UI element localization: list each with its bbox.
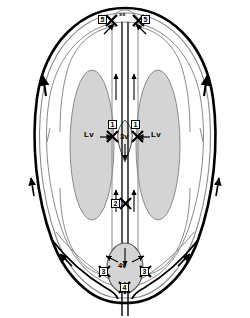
obstruction-box-site-1-right: 1 — [131, 120, 140, 129]
obstruction-box-site-3-right: 3 — [140, 267, 149, 276]
obstruction-box-site-2: 2 — [111, 199, 120, 208]
obstruction-box-site-5-right: 5 — [141, 15, 150, 24]
label-third-ventricle: 3v — [120, 133, 128, 141]
obstruction-box-site-1-left: 1 — [108, 120, 117, 129]
lateral-ventricle-right — [136, 70, 180, 220]
label-fourth-ventricle: 4v — [118, 262, 126, 270]
flow-arrow-convexity-right-lower — [216, 178, 219, 196]
csf-circulation-diagram — [0, 0, 250, 318]
obstruction-box-site-3-left: 3 — [99, 267, 108, 276]
label-lateral-ventricle-left: Lv — [84, 131, 94, 139]
obstruction-box-site-4: 4 — [120, 283, 129, 292]
flow-arrow-convexity-left-lower — [31, 178, 34, 196]
label-superior-sagittal-sinus: ss — [119, 11, 126, 17]
obstruction-box-site-5-left: 5 — [98, 15, 107, 24]
figure-canvas: Lv Lv 3v 4v ss 5 5 1 1 2 3 3 4 — [0, 0, 250, 318]
lateral-ventricle-left — [70, 70, 114, 220]
label-lateral-ventricle-right: Lv — [151, 131, 161, 139]
